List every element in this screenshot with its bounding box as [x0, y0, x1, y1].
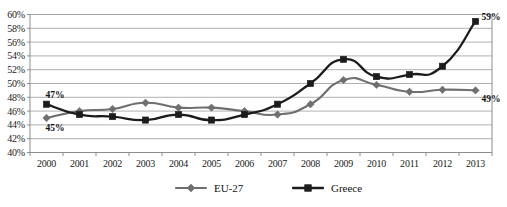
data-point-greece-2003: [142, 117, 148, 123]
data-point-greece-2013: [472, 18, 478, 24]
x-tick-label: 2007: [268, 158, 287, 169]
gridlines: [30, 15, 492, 139]
x-tick-label: 2012: [433, 158, 452, 169]
y-tick-label: 50%: [7, 78, 25, 89]
x-tick-label: 2006: [235, 158, 254, 169]
x-tick-label: 2003: [136, 158, 155, 169]
y-tick-label: 54%: [7, 50, 25, 61]
data-point-eu-27-2002: [109, 105, 116, 112]
series-line-greece: [47, 21, 476, 120]
data-point-eu-27-2012: [439, 86, 446, 93]
data-point-greece-2012: [439, 63, 445, 69]
data-point-greece-2009: [340, 56, 346, 62]
x-tick-label: 2013: [466, 158, 485, 169]
data-label-greece-2000: 47%: [46, 90, 65, 100]
series-markers: [43, 18, 479, 123]
y-tick-label: 52%: [7, 64, 25, 75]
series-lines: [47, 21, 476, 120]
legend-swatch-marker-eu-27: [187, 184, 195, 192]
data-point-eu-27-2010: [373, 81, 380, 88]
chart-legend: EU-27Greece: [176, 182, 362, 194]
data-label-eu-27-2013: 49%: [482, 94, 501, 104]
y-tick-label: 58%: [7, 23, 25, 34]
chart-container: 40%42%44%46%48%50%52%54%56%58%60% 200020…: [0, 0, 507, 207]
data-point-greece-2006: [241, 111, 247, 117]
data-point-greece-2010: [373, 74, 379, 80]
data-point-greece-2000: [43, 101, 49, 107]
y-tick-label: 42%: [7, 133, 25, 144]
legend-swatch-marker-greece: [305, 185, 312, 192]
data-point-greece-2005: [208, 117, 214, 123]
data-point-eu-27-2005: [208, 104, 215, 111]
data-point-eu-27-2013: [472, 87, 479, 94]
y-tick-label: 48%: [7, 92, 25, 103]
legend-label-greece[interactable]: Greece: [331, 182, 362, 194]
x-axis-ticks: [30, 153, 492, 157]
x-tick-label: 2011: [400, 158, 419, 169]
x-tick-label: 2002: [103, 158, 122, 169]
data-point-eu-27-2003: [142, 99, 149, 106]
data-point-eu-27-2009: [340, 76, 347, 83]
x-tick-label: 2010: [367, 158, 386, 169]
data-point-greece-2011: [406, 71, 412, 77]
data-label-eu-27-2000: 45%: [46, 123, 65, 133]
x-tick-label: 2004: [169, 158, 188, 169]
x-tick-label: 2005: [202, 158, 221, 169]
legend-label-eu-27[interactable]: EU-27: [214, 182, 244, 194]
y-tick-label: 46%: [7, 106, 25, 117]
y-tick-label: 44%: [7, 119, 25, 130]
x-axis-labels: 2000200120022003200420052006200720082009…: [37, 158, 485, 169]
data-point-greece-2001: [76, 111, 82, 117]
x-tick-label: 2001: [70, 158, 89, 169]
x-tick-label: 2000: [37, 158, 56, 169]
y-tick-label: 60%: [7, 9, 25, 20]
figure-caption: [0, 197, 507, 207]
data-point-greece-2007: [274, 101, 280, 107]
data-point-greece-2002: [109, 114, 115, 120]
data-point-eu-27-2007: [274, 111, 281, 118]
data-point-eu-27-2011: [406, 88, 413, 95]
y-tick-label: 40%: [7, 147, 25, 158]
y-tick-label: 56%: [7, 37, 25, 48]
line-chart: 40%42%44%46%48%50%52%54%56%58%60% 200020…: [0, 0, 507, 207]
data-point-greece-2004: [175, 111, 181, 117]
y-axis-labels: 40%42%44%46%48%50%52%54%56%58%60%: [7, 9, 25, 158]
x-tick-label: 2009: [334, 158, 353, 169]
x-tick-label: 2008: [301, 158, 320, 169]
data-point-eu-27-2004: [175, 104, 182, 111]
data-label-greece-2013: 59%: [482, 12, 501, 22]
data-point-greece-2008: [307, 80, 313, 86]
data-point-eu-27-2000: [43, 114, 50, 121]
